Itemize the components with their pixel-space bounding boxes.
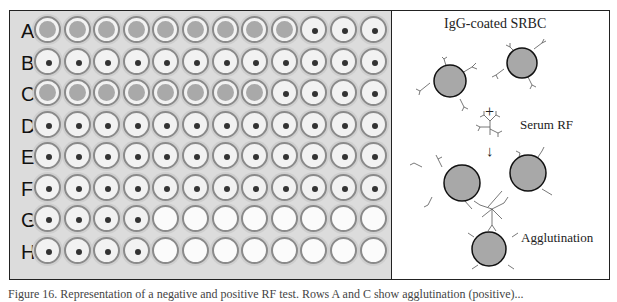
- well-E10: [300, 142, 327, 169]
- well-F1: [34, 174, 61, 201]
- well-B4: [123, 48, 150, 75]
- well-B8: [241, 48, 268, 75]
- well-H9: [271, 237, 298, 264]
- well-F2: [64, 174, 91, 201]
- well-C3: [93, 79, 120, 106]
- well-D3: [93, 111, 120, 138]
- well-A6: [182, 16, 209, 43]
- well-E5: [152, 142, 179, 169]
- well-F4: [123, 174, 150, 201]
- well-G7: [212, 205, 239, 232]
- well-D1: [34, 111, 61, 138]
- well-A11: [330, 16, 357, 43]
- figure-caption: Figure 16. Representation of a negative …: [8, 287, 524, 302]
- well-B6: [182, 48, 209, 75]
- well-F8: [241, 174, 268, 201]
- well-B9: [271, 48, 298, 75]
- well-G11: [330, 205, 357, 232]
- well-E12: [360, 142, 387, 169]
- well-E9: [271, 142, 298, 169]
- well-B1: [34, 48, 61, 75]
- well-D9: [271, 111, 298, 138]
- well-H5: [152, 237, 179, 264]
- microtiter-plate-photo: ABCDEFGH: [10, 11, 392, 279]
- well-C6: [182, 79, 209, 106]
- well-B7: [212, 48, 239, 75]
- well-D8: [241, 111, 268, 138]
- agglutination-diagram: IgG-coated SRBC + Serum RF ↓ Agglutinati…: [392, 11, 609, 279]
- well-F10: [300, 174, 327, 201]
- well-D5: [152, 111, 179, 138]
- well-E4: [123, 142, 150, 169]
- well-H2: [64, 237, 91, 264]
- well-H10: [300, 237, 327, 264]
- well-A8: [241, 16, 268, 43]
- well-C9: [271, 79, 298, 106]
- well-A1: [34, 16, 61, 43]
- well-C8: [241, 79, 268, 106]
- well-E8: [241, 142, 268, 169]
- well-G2: [64, 205, 91, 232]
- well-B3: [93, 48, 120, 75]
- well-H6: [182, 237, 209, 264]
- well-F9: [271, 174, 298, 201]
- well-H3: [93, 237, 120, 264]
- row-label-E: E: [21, 147, 34, 167]
- well-G12: [360, 205, 387, 232]
- well-D6: [182, 111, 209, 138]
- well-E2: [64, 142, 91, 169]
- well-C10: [300, 79, 327, 106]
- well-A4: [123, 16, 150, 43]
- well-B12: [360, 48, 387, 75]
- well-D12: [360, 111, 387, 138]
- well-G8: [241, 205, 268, 232]
- well-H7: [212, 237, 239, 264]
- well-G1: [34, 205, 61, 232]
- well-F5: [152, 174, 179, 201]
- well-B10: [300, 48, 327, 75]
- well-D11: [330, 111, 357, 138]
- well-B11: [330, 48, 357, 75]
- well-H8: [241, 237, 268, 264]
- well-C11: [330, 79, 357, 106]
- result-label: Agglutination: [521, 230, 593, 246]
- well-G10: [300, 205, 327, 232]
- well-B2: [64, 48, 91, 75]
- well-A3: [93, 16, 120, 43]
- well-G3: [93, 205, 120, 232]
- well-C12: [360, 79, 387, 106]
- well-F3: [93, 174, 120, 201]
- well-D4: [123, 111, 150, 138]
- row-label-B: B: [21, 53, 34, 73]
- well-F12: [360, 174, 387, 201]
- well-C2: [64, 79, 91, 106]
- well-F7: [212, 174, 239, 201]
- well-A7: [212, 16, 239, 43]
- row-label-A: A: [21, 21, 34, 41]
- well-A10: [300, 16, 327, 43]
- well-C1: [34, 79, 61, 106]
- well-D2: [64, 111, 91, 138]
- well-E1: [34, 142, 61, 169]
- well-C7: [212, 79, 239, 106]
- well-H4: [123, 237, 150, 264]
- well-C4: [123, 79, 150, 106]
- well-E7: [212, 142, 239, 169]
- well-E3: [93, 142, 120, 169]
- plus-sign: +: [485, 103, 494, 121]
- diagram-title: IgG-coated SRBC: [444, 16, 546, 32]
- well-D7: [212, 111, 239, 138]
- well-A2: [64, 16, 91, 43]
- down-arrow-icon: ↓: [486, 143, 494, 160]
- row-label-F: F: [21, 179, 33, 199]
- well-C5: [152, 79, 179, 106]
- reagent-label: Serum RF: [520, 117, 573, 133]
- well-F6: [182, 174, 209, 201]
- well-G5: [152, 205, 179, 232]
- well-H11: [330, 237, 357, 264]
- well-B5: [152, 48, 179, 75]
- well-D10: [300, 111, 327, 138]
- well-G4: [123, 205, 150, 232]
- well-G9: [271, 205, 298, 232]
- well-A12: [360, 16, 387, 43]
